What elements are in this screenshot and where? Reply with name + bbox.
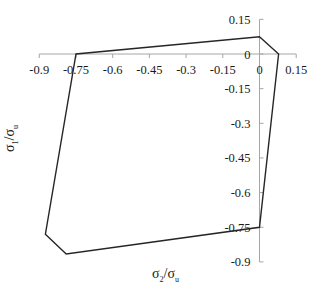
y-tick-label: -0.9 [231,255,251,269]
axes [39,19,296,262]
y-tick-label: 0 [244,48,250,62]
x-tick-label: -0.3 [176,63,196,77]
x-tick-label: -0.75 [63,63,89,77]
y-axis-title: σ1/σu [2,125,20,152]
x-tick-label: 0 [256,63,262,77]
x-tick-label: -0.6 [103,63,123,77]
y-tick-label: -0.3 [231,117,251,131]
y-tick-label: -0.45 [224,151,250,165]
x-axis-ticks: -0.9-0.75-0.6-0.45-0.3-0.1500.15 [29,54,307,77]
x-axis-title: σ2/σu [152,266,179,284]
x-tick-label: 0.15 [285,63,307,77]
y-tick-label: -0.75 [224,221,250,235]
y-tick-label: -0.6 [231,186,251,200]
y-tick-label: 0.15 [229,13,251,27]
chart-canvas: -0.9-0.75-0.6-0.45-0.3-0.1500.15 0.150-0… [0,0,324,298]
x-tick-label: -0.15 [210,63,236,77]
x-tick-label: -0.9 [29,63,49,77]
x-tick-label: -0.45 [136,63,162,77]
y-tick-label: -0.15 [224,82,250,96]
